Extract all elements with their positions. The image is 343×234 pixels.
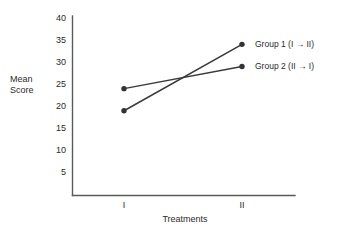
y-tick-label-5: 5 — [44, 167, 66, 178]
y-tick-label-20: 20 — [44, 101, 66, 112]
y-tick-label-10: 10 — [44, 145, 66, 156]
x-axis-title: Treatments — [150, 214, 220, 225]
data-point-group1-treatment-I — [121, 108, 126, 113]
y-tick-label-15: 15 — [44, 123, 66, 134]
y-tick-label-35: 35 — [44, 35, 66, 46]
series-label-group-2: Group 2 (II → I) — [255, 61, 314, 72]
series-line-group-2 — [124, 66, 242, 88]
x-tick-label-I: I — [114, 200, 134, 211]
y-tick-label-30: 30 — [44, 57, 66, 68]
data-point-group2-treatment-I — [121, 86, 126, 91]
data-point-group2-treatment-II — [239, 64, 244, 69]
x-tick-label-II: II — [232, 200, 252, 211]
y-axis-title-line2: Score — [10, 85, 34, 97]
y-tick-label-25: 25 — [44, 79, 66, 90]
data-point-group1-treatment-II — [239, 42, 244, 47]
chart-container: 40 35 30 25 20 15 10 5 Mean Score I II T… — [0, 0, 343, 234]
y-tick-label-40: 40 — [44, 13, 66, 24]
y-axis-title-line1: Mean — [10, 74, 33, 86]
series-label-group-1: Group 1 (I → II) — [255, 39, 314, 50]
